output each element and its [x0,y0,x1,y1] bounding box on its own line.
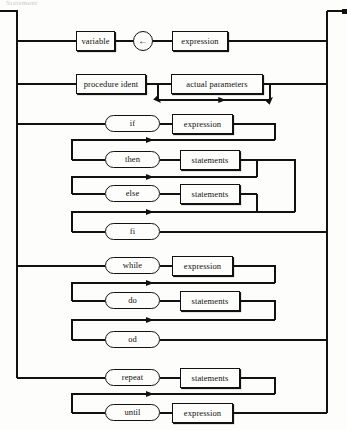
node-do-label: do [128,296,137,305]
diagram-caption: Statement [6,0,38,7]
node-expression-assign[interactable]: expression [172,31,228,51]
node-expression-while[interactable]: expression [172,256,233,276]
node-else[interactable]: else [105,185,160,202]
node-until-label: until [124,408,140,417]
node-actual-parameters[interactable]: actual parameters [171,74,263,94]
node-else-label: else [126,189,140,198]
node-statements-do-label: statements [192,297,229,306]
node-statements-repeat-label: statements [192,374,229,383]
node-expression-until[interactable]: expression [172,403,233,423]
railroad-lines [0,0,347,430]
node-statements-then-label: statements [192,156,229,165]
node-statements-do[interactable]: statements [180,291,240,311]
node-repeat[interactable]: repeat [105,369,160,386]
syntax-diagram: Statement [0,0,347,430]
node-procedure-ident[interactable]: procedure ident [76,74,146,94]
node-do[interactable]: do [105,292,160,309]
node-od[interactable]: od [105,331,160,348]
left-arrow-icon: ← [138,36,148,46]
node-actual-parameters-label: actual parameters [186,80,247,89]
node-fi-label: fi [130,227,135,236]
node-assign-arrow-icon[interactable]: ← [133,31,153,51]
node-procedure-ident-label: procedure ident [84,80,139,89]
node-variable[interactable]: variable [76,31,115,51]
node-fi[interactable]: fi [105,223,160,240]
node-while-label: while [123,261,142,270]
node-if-label: if [130,119,135,128]
node-expression-assign-label: expression [181,37,218,46]
node-statements-repeat[interactable]: statements [180,368,240,388]
node-then[interactable]: then [105,151,160,168]
node-expression-until-label: expression [184,409,221,418]
node-repeat-label: repeat [122,373,143,382]
node-then-label: then [125,155,140,164]
node-while[interactable]: while [105,257,160,274]
node-statements-then[interactable]: statements [180,150,240,170]
node-variable-label: variable [81,37,109,46]
node-statements-else-label: statements [192,190,229,199]
node-expression-if-label: expression [184,120,221,129]
node-expression-while-label: expression [184,262,221,271]
node-if[interactable]: if [105,115,160,132]
node-until[interactable]: until [105,404,160,421]
node-od-label: od [128,335,137,344]
node-expression-if[interactable]: expression [172,114,233,134]
node-statements-else[interactable]: statements [180,184,240,204]
